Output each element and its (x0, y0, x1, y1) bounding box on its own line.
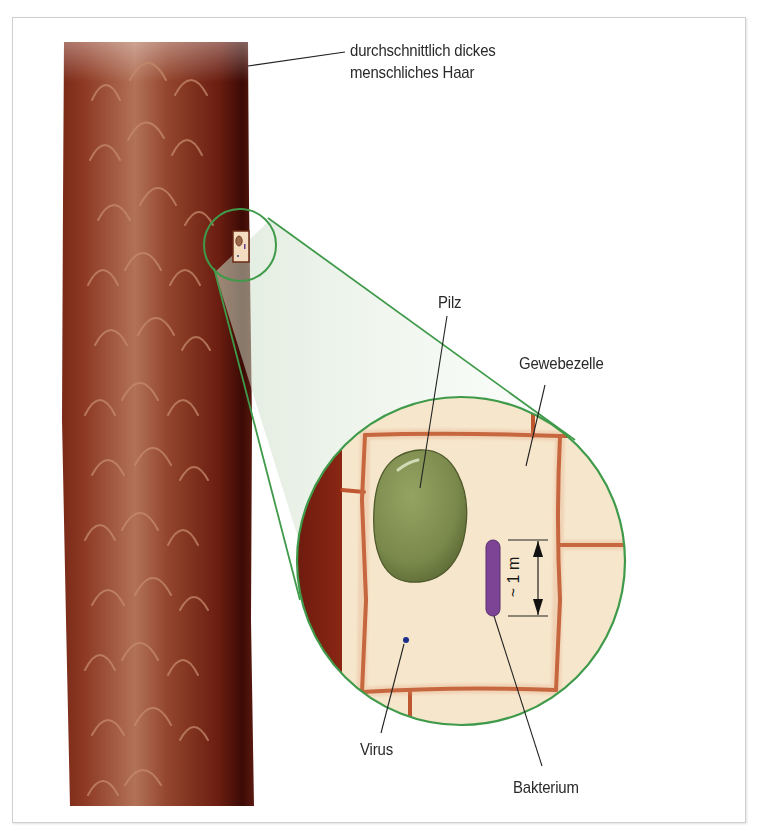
hair-label-line1: durchschnittlich dickes (350, 40, 496, 61)
tissue-cell-label: Gewebezelle (519, 353, 604, 374)
scale-label: ~ 1 m (505, 555, 523, 599)
hair-label-line2: menschliches Haar (350, 62, 474, 83)
diagram-canvas (0, 0, 757, 826)
fungus-label: Pilz (438, 292, 461, 313)
virus-particle (403, 637, 409, 643)
virus-label: Virus (360, 739, 393, 760)
hair-strand (62, 42, 254, 806)
hair-leader-line (248, 52, 345, 66)
bacterium-cell (486, 540, 500, 616)
fungus-cell (374, 450, 467, 582)
bacterium-label: Bakterium (513, 777, 579, 798)
